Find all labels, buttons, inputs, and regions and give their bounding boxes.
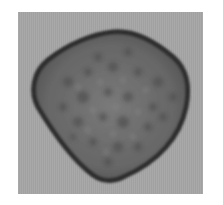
micrograph-frame bbox=[18, 12, 203, 194]
pollen-grain bbox=[18, 12, 203, 194]
